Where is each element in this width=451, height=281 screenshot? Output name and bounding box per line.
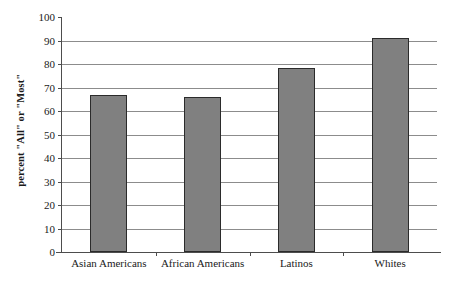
plot-area: 0102030405060708090100 — [62, 17, 437, 252]
y-axis-title-text: percent "All" or "Most" — [16, 73, 27, 186]
x-axis-tick-label: Whites — [375, 257, 406, 269]
y-axis-tick-label: 100 — [39, 12, 56, 23]
y-axis-tick-label: 50 — [44, 129, 55, 140]
bar — [278, 68, 315, 252]
y-axis-tick-mark — [58, 229, 62, 230]
x-axis-tick-label: Latinos — [280, 257, 313, 269]
bar — [372, 38, 409, 252]
bar-chart: percent "All" or "Most" 0102030405060708… — [0, 0, 451, 281]
y-axis-tick-mark — [58, 41, 62, 42]
y-axis-tick-mark — [58, 64, 62, 65]
y-axis-tick-label: 70 — [44, 82, 55, 93]
y-axis-tick-mark — [58, 17, 62, 18]
x-axis-tick-label: Asian Americans — [71, 257, 146, 269]
y-axis-tick-label: 80 — [44, 59, 55, 70]
y-axis-tick-mark — [58, 111, 62, 112]
y-axis-tick-label: 60 — [44, 106, 55, 117]
y-axis-tick-label: 90 — [44, 35, 55, 46]
y-axis-tick-mark — [58, 182, 62, 183]
bar — [90, 95, 127, 252]
y-axis-tick-mark — [58, 252, 62, 253]
y-axis-tick-label: 10 — [44, 223, 55, 234]
bar — [184, 97, 221, 252]
y-axis-tick-label: 0 — [50, 247, 56, 258]
y-axis-tick-mark — [58, 88, 62, 89]
x-axis-tick-mark — [343, 252, 344, 256]
y-axis-tick-label: 40 — [44, 153, 55, 164]
y-axis-tick-mark — [58, 205, 62, 206]
y-axis-tick-mark — [58, 135, 62, 136]
y-axis-tick-label: 30 — [44, 176, 55, 187]
y-axis-title: percent "All" or "Most" — [14, 60, 28, 200]
y-axis-tick-label: 20 — [44, 200, 55, 211]
y-axis-tick-mark — [58, 158, 62, 159]
x-axis-tick-mark — [156, 252, 157, 256]
x-axis-tick-label: African Americans — [161, 257, 244, 269]
x-axis-tick-mark — [250, 252, 251, 256]
